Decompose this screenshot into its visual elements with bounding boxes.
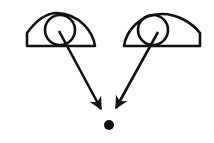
right-eye-icon <box>124 14 200 46</box>
gaze-convergence-diagram <box>0 0 214 143</box>
right-gaze-arrow <box>116 32 158 108</box>
focus-point-dot <box>104 120 114 130</box>
left-eye-icon <box>27 13 95 46</box>
